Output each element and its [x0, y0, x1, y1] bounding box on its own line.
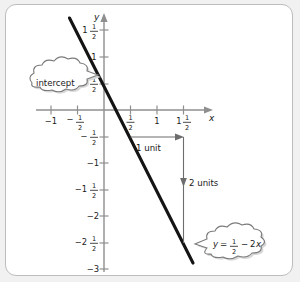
- svg-text:1: 1: [92, 23, 96, 31]
- svg-text:1: 1: [128, 114, 132, 122]
- y-tick-label-neg-half: − 1 2: [80, 129, 98, 147]
- svg-text:1: 1: [92, 182, 96, 190]
- plotted-line: [70, 18, 194, 263]
- x-tick-label-half: 1 2: [127, 114, 135, 132]
- svg-text:−: −: [241, 239, 248, 249]
- svg-text:2: 2: [92, 192, 96, 200]
- svg-text:−1: −1: [75, 184, 87, 194]
- svg-text:x: x: [255, 239, 262, 249]
- svg-text:1: 1: [176, 116, 181, 126]
- y-tick-label-neg1-half: −1 1 2: [75, 182, 98, 200]
- x-tick-label-neg1: −1: [45, 116, 57, 126]
- rise-arrow-icon: [180, 178, 187, 187]
- graph-canvas: x y −1 − 1 2 1 2 1 1 1 2: [0, 0, 300, 282]
- run-guide: [131, 134, 185, 141]
- y-tick-label-neg2-half: −2 1 2: [75, 235, 98, 253]
- svg-text:1: 1: [82, 25, 87, 35]
- svg-text:1: 1: [92, 129, 96, 137]
- run-arrow-icon: [175, 134, 184, 141]
- y-axis-label: y: [93, 12, 100, 22]
- y-tick-label-neg1: −1: [87, 158, 99, 168]
- y-axis: [100, 13, 107, 272]
- svg-text:2: 2: [92, 33, 96, 41]
- intercept-label: intercept: [36, 78, 75, 88]
- svg-text:1: 1: [185, 114, 189, 122]
- svg-text:2: 2: [92, 86, 96, 94]
- svg-text:2: 2: [92, 139, 96, 147]
- y-tick-label-neg2: −2: [87, 211, 99, 221]
- svg-text:2: 2: [92, 245, 96, 253]
- y-tick-label-1-half: 1 1 2: [82, 23, 98, 41]
- svg-text:2: 2: [185, 124, 189, 132]
- svg-text:1: 1: [232, 238, 236, 246]
- run-label: 1 unit: [136, 143, 161, 153]
- rise-label: 2 units: [189, 178, 219, 188]
- x-tick-label-1-half: 1 1 2: [176, 114, 191, 132]
- x-tick-label-1: 1: [154, 116, 159, 126]
- y-axis-arrow-icon: [100, 13, 107, 22]
- svg-text:2: 2: [128, 124, 132, 132]
- svg-text:−2: −2: [75, 237, 87, 247]
- x-axis: [36, 106, 213, 113]
- svg-text:−: −: [80, 131, 87, 141]
- svg-text:−: −: [66, 114, 73, 124]
- svg-text:=: =: [220, 239, 227, 249]
- svg-text:y: y: [212, 239, 219, 249]
- y-tick-label-neg3: −3: [87, 264, 99, 274]
- svg-text:1: 1: [92, 235, 96, 243]
- svg-text:1: 1: [78, 114, 82, 122]
- svg-text:2: 2: [232, 248, 236, 256]
- rise-guide: [180, 137, 187, 243]
- svg-text:2: 2: [250, 239, 255, 249]
- x-tick-label-neg-half: − 1 2: [66, 114, 84, 132]
- x-axis-label: x: [208, 113, 215, 123]
- graph-figure: x y −1 − 1 2 1 2 1 1 1 2: [0, 0, 300, 282]
- equation-callout: y = 1 2 − 2 x: [195, 223, 267, 261]
